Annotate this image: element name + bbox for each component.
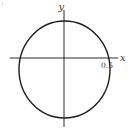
circle-diagram: x y 0.5 (0, 0, 132, 138)
x-axis-label: x (120, 52, 126, 63)
x-intercept-label: 0.5 (101, 61, 113, 70)
y-axis-label: y (58, 1, 65, 12)
stray-mark (2, 3, 3, 4)
